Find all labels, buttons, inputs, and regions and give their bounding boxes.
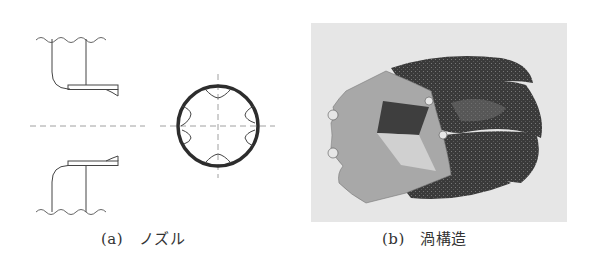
nozzle-lower-outer-wall [52,166,70,213]
vortex-structure-render [311,23,567,222]
nozzle-lower-tip [106,156,118,161]
break-line-bottom [36,210,106,215]
figure: (a) ノズル (b) 渦構造 [0,0,595,270]
nozzle-upper-tip [106,90,118,97]
caption-b: (b) 渦構造 [382,227,467,248]
nozzle-upper-lip [68,85,118,90]
vortex-render-panel [311,23,567,222]
nozzle-diagram [0,0,300,225]
caption-a: (a) ノズル [101,227,185,248]
nozzle-lower-lip [68,161,118,166]
nozzle-upper-outer-wall [52,39,70,89]
break-line-top [36,38,106,43]
